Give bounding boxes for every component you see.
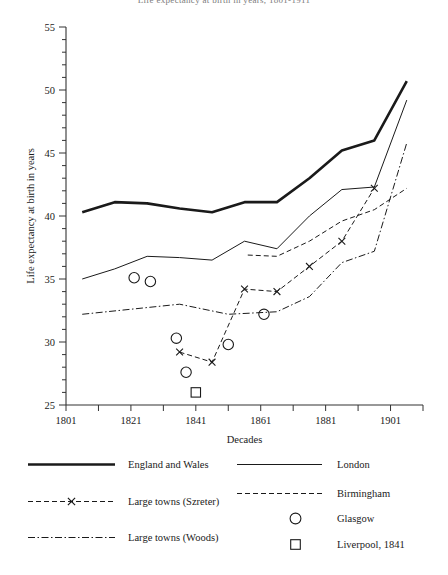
legend-entry[interactable]: England and Wales — [28, 459, 209, 470]
legend-entry[interactable]: Birmingham — [237, 488, 390, 499]
legend-entry-label: Glasgow — [337, 513, 375, 524]
liverpool-point-marker — [191, 388, 200, 397]
plot-area — [82, 81, 407, 362]
glasgow-point-marker — [259, 309, 269, 319]
legend-entry-label: Birmingham — [337, 488, 390, 499]
series-marker-x — [209, 359, 216, 366]
x-tick-label: 1801 — [56, 415, 77, 426]
legend-entry-label: London — [337, 459, 370, 470]
y-axis-title: Life expectancy at birth in years — [25, 148, 36, 284]
x-tick-label: 1881 — [315, 415, 336, 426]
data-point-markers — [129, 185, 378, 397]
x-tick-label: 1861 — [250, 415, 271, 426]
y-tick-label: 40 — [45, 211, 56, 222]
x-tick-label: 1901 — [380, 415, 401, 426]
y-tick-label: 25 — [45, 400, 56, 411]
chart-svg: 25303540455055180118211841186118811901 L… — [0, 0, 448, 575]
glasgow-point-marker — [171, 333, 181, 343]
series-marker-x — [306, 263, 313, 270]
legend-square-icon — [291, 540, 301, 550]
legend-group: England and WalesLarge towns (Szreter)La… — [28, 459, 405, 550]
legend-entry[interactable]: Large towns (Szreter) — [28, 496, 220, 508]
series-marker-x — [176, 349, 183, 356]
series-line — [82, 81, 407, 212]
glasgow-point-marker — [223, 339, 233, 349]
glasgow-point-marker — [145, 276, 155, 286]
x-tick-label: 1821 — [120, 415, 141, 426]
legend-entry-label: Large towns (Szreter) — [128, 496, 220, 508]
axes-group: 25303540455055180118211841186118811901 — [45, 22, 424, 426]
legend-entry-label: England and Wales — [128, 459, 209, 470]
series-marker-x — [338, 238, 345, 245]
legend-entry[interactable]: Glasgow — [290, 513, 375, 524]
legend-entry-label: Large towns (Woods) — [128, 532, 219, 544]
series-line — [82, 100, 407, 279]
axis-labels-group: Life expectancy at birth in yearsDecades — [25, 148, 262, 445]
y-tick-label: 35 — [45, 274, 56, 285]
x-axis-title: Decades — [227, 434, 263, 445]
legend-entry-label: Liverpool, 1841 — [337, 539, 405, 550]
legend-entry[interactable]: Liverpool, 1841 — [291, 539, 405, 550]
y-tick-label: 45 — [45, 148, 56, 159]
series-line — [180, 188, 375, 362]
x-tick-label: 1841 — [185, 415, 206, 426]
chart-figure: 25303540455055180118211841186118811901 L… — [0, 0, 448, 575]
legend-entry[interactable]: Large towns (Woods) — [28, 532, 219, 544]
glasgow-point-marker — [181, 367, 191, 377]
y-tick-label: 30 — [45, 337, 56, 348]
glasgow-point-marker — [129, 273, 139, 283]
y-tick-label: 50 — [45, 85, 56, 96]
y-tick-label: 55 — [45, 22, 56, 33]
legend-circle-icon — [290, 513, 301, 524]
legend-entry[interactable]: London — [237, 459, 370, 470]
